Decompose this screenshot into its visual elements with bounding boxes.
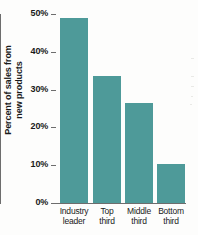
bar bbox=[93, 76, 121, 203]
scan-artifact bbox=[191, 76, 194, 77]
x-axis-category-label-line: third bbox=[151, 216, 191, 226]
x-axis-category-label-line: Bottom bbox=[151, 206, 191, 216]
plot-area bbox=[0, 0, 198, 203]
bar bbox=[60, 18, 88, 203]
bar-chart-figure: Percent of sales from new products 0%10%… bbox=[0, 0, 198, 235]
y-axis-tick-mark bbox=[51, 203, 56, 204]
scan-artifact bbox=[191, 58, 194, 59]
bar bbox=[125, 103, 153, 203]
scan-artifact bbox=[191, 86, 194, 87]
scan-artifact bbox=[191, 96, 193, 97]
x-axis-line bbox=[56, 203, 186, 204]
bar bbox=[157, 164, 185, 203]
x-axis-category-label: Bottomthird bbox=[151, 206, 191, 226]
scan-artifact bbox=[190, 104, 192, 105]
